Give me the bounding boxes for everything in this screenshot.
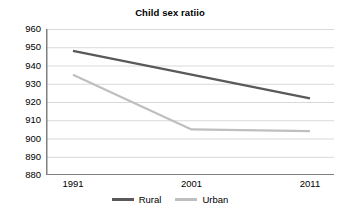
y-axis-tick-label: 890 (1, 152, 41, 162)
legend-label: Rural (139, 194, 162, 205)
x-axis-tick-label: 2011 (280, 178, 340, 190)
y-axis-tick-label: 920 (1, 97, 41, 107)
legend-item-rural[interactable]: Rural (112, 194, 162, 205)
x-axis-tick-labels: 199120012011 (46, 178, 334, 192)
y-axis-tick-label: 950 (1, 42, 41, 52)
chart-plot-svg (46, 29, 334, 175)
x-axis-tick-label: 1991 (43, 178, 103, 190)
y-axis-tick-label: 930 (1, 79, 41, 89)
y-axis-tick-label: 880 (1, 170, 41, 180)
y-axis-tick-label: 910 (1, 115, 41, 125)
x-axis-tick-label: 2001 (162, 178, 222, 190)
plot-area (46, 29, 334, 175)
chart-legend: RuralUrban (0, 194, 340, 205)
y-axis-tick-labels: 960950940930920910900890880 (0, 29, 41, 175)
chart-container: Child sex ratiio 96095094093092091090089… (0, 0, 340, 218)
legend-swatch-icon (112, 198, 134, 201)
y-axis-tick-label: 960 (1, 24, 41, 34)
chart-title: Child sex ratiio (0, 7, 340, 18)
legend-label: Urban (202, 194, 228, 205)
y-axis-tick-label: 900 (1, 134, 41, 144)
y-axis-tick-label: 940 (1, 61, 41, 71)
legend-swatch-icon (175, 198, 197, 201)
legend-item-urban[interactable]: Urban (175, 194, 228, 205)
